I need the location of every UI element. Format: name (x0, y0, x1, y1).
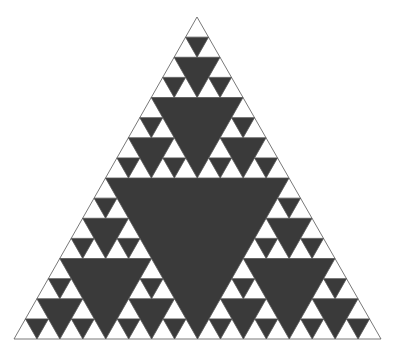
sierpinski-triangle (0, 0, 395, 347)
